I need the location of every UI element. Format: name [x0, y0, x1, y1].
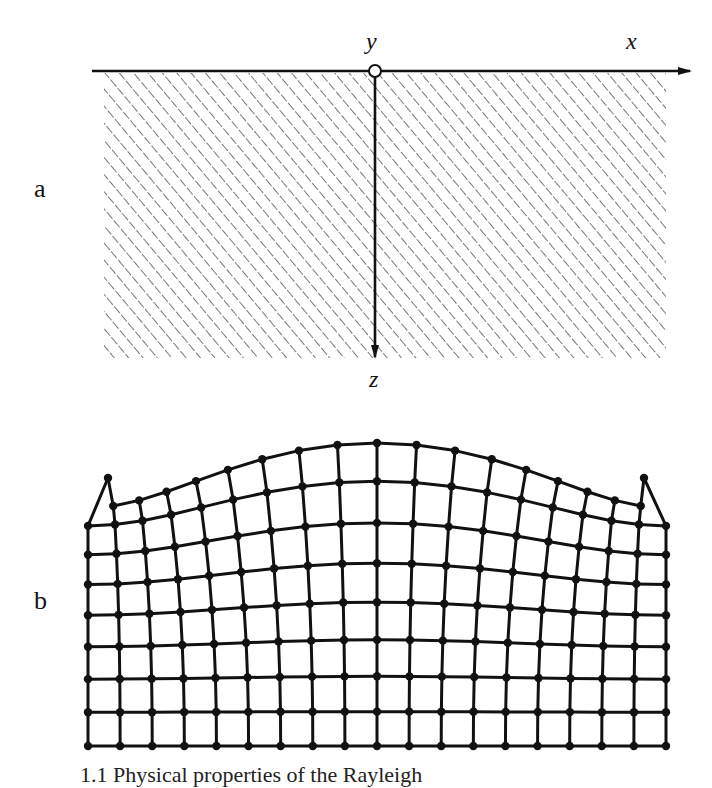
particle-node: [630, 675, 638, 683]
particle-node: [599, 642, 607, 650]
particle-node: [373, 672, 381, 680]
grid-line: [409, 640, 410, 676]
particle-node: [442, 561, 450, 569]
grid-line: [279, 642, 280, 677]
particle-node: [605, 547, 613, 555]
particle-node: [549, 503, 557, 511]
particle-node: [662, 580, 670, 588]
particle-node: [534, 674, 542, 682]
grid-line: [538, 678, 539, 712]
grid-line: [508, 643, 540, 644]
grid-line: [178, 576, 209, 579]
grid-line: [119, 615, 120, 647]
grid-line: [233, 500, 237, 536]
grid-line: [572, 645, 604, 646]
particle-node: [506, 603, 514, 611]
grid-line: [311, 640, 344, 641]
grid-line: [449, 527, 484, 531]
grid-line: [342, 563, 377, 564]
particle-node: [568, 641, 576, 649]
particle-node: [598, 742, 606, 750]
grid-line: [206, 542, 210, 576]
particle-node: [501, 708, 509, 716]
particle-node: [308, 708, 316, 716]
particle-node: [298, 482, 306, 490]
grid-line: [343, 603, 344, 640]
particle-node: [340, 636, 348, 644]
grid-line: [513, 572, 545, 576]
particle-node: [338, 560, 346, 568]
grid-line: [116, 554, 117, 584]
grid-line: [609, 551, 638, 554]
particle-node: [267, 527, 275, 535]
grid-line: [487, 492, 521, 499]
grid-line: [571, 645, 572, 678]
particle-node: [439, 636, 447, 644]
grid-line: [310, 604, 311, 641]
particle-node: [272, 601, 280, 609]
particle-node: [569, 608, 577, 616]
grid-line: [558, 481, 587, 492]
particle-node: [341, 707, 349, 715]
particle-node: [536, 640, 544, 648]
grid-line: [180, 610, 212, 612]
grid-line: [201, 507, 205, 541]
grid-line: [337, 443, 377, 445]
grid-line: [302, 483, 339, 487]
grid-line: [118, 584, 119, 615]
particle-node: [116, 708, 124, 716]
grid-line: [267, 492, 271, 531]
grid-line: [605, 614, 636, 615]
particle-node: [630, 708, 638, 716]
grid-line: [262, 451, 299, 460]
particle-node: [258, 455, 266, 463]
grid-line: [145, 547, 175, 551]
particle-node: [109, 502, 117, 510]
grid-line: [312, 677, 313, 712]
grid-line: [180, 612, 182, 645]
particle-node: [180, 742, 188, 750]
particle-node: [373, 636, 381, 644]
particle-node: [544, 537, 552, 545]
grid-line: [516, 536, 548, 542]
grid-line: [576, 547, 579, 579]
particle-node: [167, 511, 175, 519]
particle-node: [630, 742, 638, 750]
grid-line: [143, 515, 172, 521]
particle-node: [488, 455, 496, 463]
particle-node: [210, 640, 218, 648]
particle-node: [115, 642, 123, 650]
grid-line: [635, 615, 636, 647]
particle-node: [304, 561, 312, 569]
grid-line: [377, 563, 412, 564]
particle-node: [579, 511, 587, 519]
grid-line: [241, 569, 274, 572]
grid-line: [603, 646, 634, 647]
grid-line: [274, 566, 308, 569]
particle-node: [84, 522, 92, 530]
grid-line: [587, 492, 614, 501]
grid-line: [636, 554, 637, 584]
particle-node: [333, 441, 341, 449]
grid-line: [149, 612, 180, 614]
grid-line: [341, 524, 342, 564]
grid-line: [212, 608, 244, 610]
particle-node: [373, 519, 381, 527]
grid-line: [444, 566, 446, 604]
particle-node: [373, 559, 381, 567]
particle-node: [147, 642, 155, 650]
particle-node: [307, 636, 315, 644]
grid-line: [516, 500, 520, 536]
grid-line: [108, 478, 113, 506]
grid-line: [609, 521, 612, 551]
grid-line: [116, 551, 145, 554]
particle-node: [113, 580, 121, 588]
particle-node: [205, 572, 213, 580]
particle-node: [208, 606, 216, 614]
particle-node: [341, 742, 349, 750]
grid-line: [339, 481, 377, 482]
particle-node: [640, 474, 648, 482]
grid-line: [574, 579, 576, 612]
grid-line: [206, 536, 238, 542]
particle-node: [229, 495, 237, 503]
